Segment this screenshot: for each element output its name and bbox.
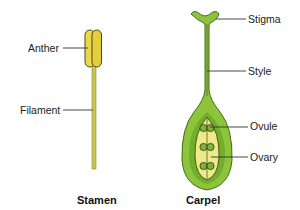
- filament-label: Filament: [20, 104, 60, 116]
- ovary-label: Ovary: [250, 151, 279, 163]
- flower-parts-diagram: Anther Filament Stamen Stigma Style: [0, 0, 300, 210]
- stigma-label: Stigma: [248, 13, 281, 25]
- ovule-label: Ovule: [250, 120, 278, 132]
- filament-shape: [92, 64, 96, 169]
- style-label: Style: [248, 65, 272, 77]
- stamen: Anther Filament Stamen: [20, 30, 117, 206]
- carpel: Stigma Style Ovule Ovary Carpel: [182, 11, 281, 206]
- anther-label: Anther: [28, 42, 59, 54]
- carpel-title: Carpel: [186, 194, 220, 206]
- stamen-title: Stamen: [77, 194, 117, 206]
- anther-shape: [85, 30, 102, 67]
